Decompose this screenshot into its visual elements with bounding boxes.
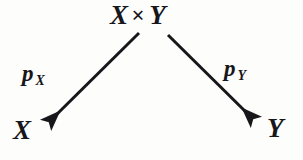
- projection-x-subscript: X: [36, 73, 45, 88]
- arrow-label-projection-x: pX: [22, 62, 43, 85]
- apex-factor-left: X: [110, 0, 130, 30]
- projection-y-subscript: Y: [238, 68, 247, 83]
- arrow-label-projection-y: pY: [224, 57, 244, 80]
- projection-y-name: p: [224, 56, 236, 81]
- arrow-projection-x: [49, 33, 139, 122]
- node-y: Y: [267, 115, 284, 142]
- apex-factor-right: Y: [147, 0, 166, 30]
- diagram-canvas: X×Y X Y pX pY: [0, 0, 303, 160]
- projection-x-name: p: [22, 61, 34, 86]
- product-times-symbol: ×: [130, 3, 148, 28]
- node-x: X: [13, 117, 32, 144]
- node-product-apex: X×Y: [110, 2, 166, 29]
